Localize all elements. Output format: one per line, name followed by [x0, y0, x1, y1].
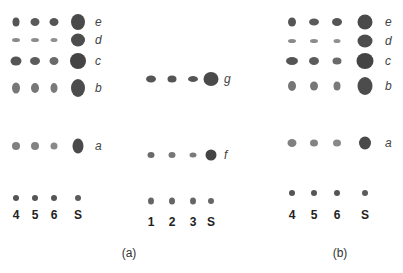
row-label-e: e: [95, 15, 102, 29]
lane-label-6: 6: [51, 208, 58, 222]
spot-b-d-4: [288, 39, 296, 43]
spot-a-left-c-6: [50, 57, 59, 65]
lane-label-5: 5: [32, 208, 39, 222]
spot-a-center-g-S: [204, 72, 219, 86]
spot-b-e-S: [358, 15, 373, 30]
spot-a-left-e-S: [71, 14, 85, 30]
spot-a-center-g-2: [168, 76, 177, 83]
row-label-b: b: [385, 79, 392, 93]
spot-b-a-6: [333, 140, 341, 147]
spot-b-e-4: [288, 18, 296, 27]
spot-a-left-ref-S: [75, 195, 81, 201]
row-label-c: c: [385, 54, 391, 68]
lane-label-S: S: [361, 208, 369, 222]
spot-a-left-e-4: [13, 18, 20, 27]
spot-a-left-ref-6: [51, 195, 57, 201]
panel-caption: (b): [333, 246, 348, 260]
spot-a-left-a-S: [73, 139, 84, 154]
lane-label-S: S: [207, 215, 215, 229]
spot-a-left-b-4: [12, 83, 20, 94]
spot-b-b-6: [334, 82, 341, 91]
row-label-g: g: [224, 72, 231, 86]
spot-b-c-4: [286, 57, 298, 65]
lane-label-1: 1: [148, 215, 155, 229]
spot-a-left-ref-4: [13, 195, 19, 201]
spot-b-ref-S: [362, 190, 368, 196]
spot-a-left-d-4: [12, 38, 20, 42]
spot-a-center-g-3: [188, 76, 198, 82]
row-label-a: a: [95, 139, 102, 153]
lane-label-4: 4: [13, 208, 20, 222]
spot-b-c-6: [333, 58, 342, 65]
spot-b-a-5: [310, 140, 318, 147]
row-label-d: d: [385, 34, 392, 48]
spot-a-left-d-6: [51, 38, 58, 42]
lane-label-S: S: [74, 208, 82, 222]
lane-label-5: 5: [311, 208, 318, 222]
spot-a-left-a-6: [51, 143, 58, 150]
lane-label-3: 3: [190, 215, 197, 229]
spot-a-left-ref-5: [32, 195, 38, 201]
spot-a-center-f-1: [148, 152, 155, 158]
spot-b-a-S: [359, 137, 371, 150]
spot-a-center-f-S: [206, 150, 217, 161]
spot-a-left-e-5: [31, 18, 40, 26]
row-label-a: a: [385, 136, 392, 150]
spot-b-d-5: [310, 39, 318, 43]
spot-a-left-b-S: [71, 79, 85, 97]
spot-b-b-S: [358, 77, 373, 95]
spot-a-center-ref-S: [208, 198, 214, 204]
spot-a-center-f-3: [190, 153, 197, 158]
spot-b-ref-6: [334, 190, 340, 196]
spot-a-center-ref-1: [148, 198, 154, 205]
spot-a-left-d-S: [71, 34, 85, 47]
spot-a-left-c-5: [30, 57, 40, 65]
spot-a-center-ref-2: [169, 198, 175, 205]
lane-label-6: 6: [334, 208, 341, 222]
panel-caption: (a): [122, 246, 137, 260]
spot-b-d-6: [334, 39, 341, 43]
lane-label-2: 2: [169, 215, 176, 229]
spot-b-a-4: [288, 139, 297, 147]
spot-b-b-5: [310, 82, 318, 91]
spot-a-left-d-5: [31, 38, 39, 42]
spot-a-center-ref-3: [190, 198, 196, 205]
row-label-f: f: [224, 148, 227, 162]
spot-a-left-e-6: [50, 18, 59, 26]
spot-b-b-4: [288, 81, 296, 91]
spot-b-ref-4: [289, 190, 295, 196]
spot-b-c-5: [309, 57, 319, 65]
spot-a-left-c-4: [11, 57, 22, 66]
spot-b-d-S: [358, 35, 373, 48]
spot-a-center-g-1: [146, 76, 156, 83]
spot-b-e-6: [332, 18, 342, 26]
spot-a-left-b-5: [31, 83, 39, 93]
lane-label-4: 4: [289, 208, 296, 222]
spot-b-c-S: [357, 53, 374, 69]
spot-a-left-b-6: [51, 83, 58, 93]
spot-a-center-f-2: [169, 152, 176, 158]
spot-b-ref-5: [311, 190, 317, 196]
row-label-b: b: [95, 81, 102, 95]
spot-a-left-c-S: [70, 53, 86, 69]
spot-b-e-5: [309, 19, 319, 26]
spot-a-left-a-5: [31, 142, 39, 150]
row-label-e: e: [385, 15, 392, 29]
row-label-d: d: [95, 33, 102, 47]
row-label-c: c: [95, 54, 101, 68]
spot-a-left-a-4: [12, 142, 20, 150]
